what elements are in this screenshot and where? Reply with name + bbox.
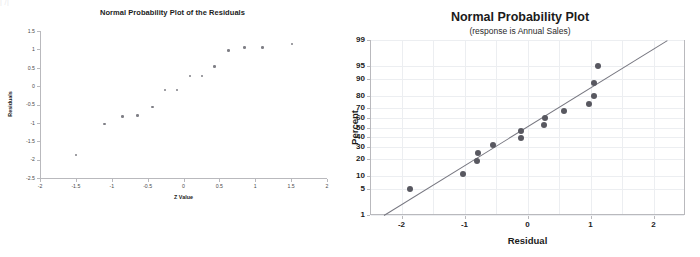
right-chart-plot-area: 151020304050607080909599-2-1012 [340, 0, 700, 257]
left-chart-x-tick [184, 179, 185, 182]
left-chart-data-point [201, 75, 204, 78]
left-chart-data-point [243, 46, 246, 49]
left-chart-data-point [189, 75, 192, 78]
right-chart-v-gridline [654, 41, 655, 214]
left-chart-y-axis [40, 31, 41, 179]
left-chart-x-tick-label: 0 [170, 183, 198, 189]
right-chart-v-gridline [559, 41, 560, 214]
right-chart-y-tick-label: 40 [340, 132, 365, 141]
left-chart-x-tick [291, 179, 292, 182]
right-chart-y-tick [367, 137, 370, 138]
right-chart-y-tick-label: 70 [340, 103, 365, 112]
left-chart-data-point [121, 115, 124, 118]
left-chart-x-tick [255, 179, 256, 182]
left-chart-data-point [75, 154, 78, 157]
annual-sales-normal-probability-plot: Normal Probability Plot (response is Ann… [340, 0, 700, 257]
right-chart-y-tick-label: 95 [340, 61, 365, 70]
right-chart-data-point [542, 115, 548, 121]
left-chart-x-tick-label: 1.5 [277, 183, 305, 189]
right-chart-y-tick [367, 79, 370, 80]
right-chart-y-tick [367, 108, 370, 109]
right-chart-y-tick [367, 96, 370, 97]
left-chart-data-point [103, 123, 106, 126]
left-chart-y-tick [37, 141, 40, 142]
left-chart-x-tick-label: 1 [241, 183, 269, 189]
right-chart-y-tick-label: 10 [340, 171, 365, 180]
left-chart-y-tick [37, 49, 40, 50]
left-chart-y-tick [37, 68, 40, 69]
right-chart-y-tick-label: 90 [340, 74, 365, 83]
right-chart-data-point [474, 158, 480, 164]
right-chart-data-point [561, 108, 567, 114]
left-chart-y-tick [37, 31, 40, 32]
right-chart-y-tick-label: 1 [340, 210, 365, 219]
left-chart-x-tick-label: -0.5 [134, 183, 162, 189]
right-chart-y-tick [367, 147, 370, 148]
right-chart-x-tick [402, 216, 403, 219]
right-chart-y-tick [367, 118, 370, 119]
right-chart-x-tick [591, 216, 592, 219]
left-chart-x-tick-label: 0.5 [205, 183, 233, 189]
right-chart-y-tick [367, 66, 370, 67]
right-chart-x-tick-label: 2 [638, 220, 670, 229]
left-chart-plot-area: 1.510.50-0.5-1-1.5-2-2.5-2-1.5-1-0.500.5… [0, 0, 345, 220]
residuals-normal-probability-plot: Normal Probability Plot of the Residuals… [0, 0, 345, 220]
right-chart-v-gridline [402, 41, 403, 214]
left-chart-data-point [136, 114, 139, 117]
right-chart-x-tick [465, 216, 466, 219]
left-chart-y-tick [37, 160, 40, 161]
right-chart-y-tick-label: 60 [340, 113, 365, 122]
right-chart-v-gridline [591, 41, 592, 214]
right-chart-y-tick-label: 20 [340, 154, 365, 163]
right-chart-y-tick-label: 50 [340, 123, 365, 132]
right-chart-data-point [591, 80, 597, 86]
right-chart-y-tick [367, 176, 370, 177]
left-chart-data-point [164, 89, 167, 92]
left-chart-data-point [261, 46, 264, 49]
right-chart-v-gridline [528, 41, 529, 214]
right-chart-v-gridline [433, 41, 434, 214]
right-chart-x-tick [654, 216, 655, 219]
left-chart-x-tick-label: -1 [98, 183, 126, 189]
left-chart-y-tick [37, 105, 40, 106]
left-chart-y-tick-label: -2.5 [0, 175, 35, 181]
right-chart-x-tick [528, 216, 529, 219]
right-chart-y-tick-label: 80 [340, 91, 365, 100]
right-chart-y-tick [367, 215, 370, 216]
left-chart-y-tick-label: 1.5 [0, 28, 35, 34]
screenshot-page: | /| Normal Probability Plot of the Resi… [0, 0, 700, 257]
right-chart-y-tick [367, 40, 370, 41]
left-chart-x-tick [148, 179, 149, 182]
right-chart-data-point [591, 93, 597, 99]
right-chart-y-tick-label: 99 [340, 35, 365, 44]
left-chart-y-tick-label: -1.5 [0, 138, 35, 144]
left-chart-data-point [213, 65, 216, 68]
left-chart-x-tick [112, 179, 113, 182]
left-chart-x-tick [76, 179, 77, 182]
right-chart-data-point [490, 142, 496, 148]
right-chart-y-tick [367, 128, 370, 129]
left-chart-data-point [291, 43, 294, 46]
left-chart-x-tick [327, 179, 328, 182]
left-chart-y-tick-label: -0.5 [0, 101, 35, 107]
right-chart-data-point [541, 122, 547, 128]
left-chart-y-tick-label: 0 [0, 83, 35, 89]
right-chart-v-gridline [496, 41, 497, 214]
right-chart-x-tick-label: -1 [449, 220, 481, 229]
right-chart-y-tick [367, 159, 370, 160]
right-chart-v-gridline [465, 41, 466, 214]
left-chart-y-tick-label: -1 [0, 120, 35, 126]
left-chart-y-tick-label: 0.5 [0, 65, 35, 71]
right-chart-x-tick-label: 1 [575, 220, 607, 229]
left-chart-y-tick [37, 123, 40, 124]
left-chart-x-tick-label: 2 [313, 183, 341, 189]
left-chart-data-point [151, 106, 154, 109]
right-chart-y-tick-label: 30 [340, 142, 365, 151]
left-chart-data-point [176, 89, 179, 92]
right-chart-y-tick [367, 189, 370, 190]
left-chart-y-tick-label: -2 [0, 156, 35, 162]
left-chart-data-point [227, 49, 230, 52]
right-chart-x-tick-label: -2 [386, 220, 418, 229]
right-chart-y-tick-label: 5 [340, 184, 365, 193]
left-chart-x-tick [40, 179, 41, 182]
